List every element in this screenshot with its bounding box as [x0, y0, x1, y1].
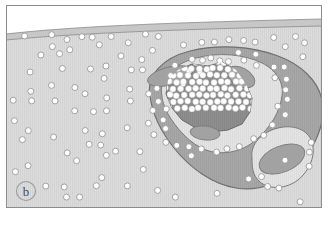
- core-cell-dot: [224, 93, 230, 99]
- cell-dot: [89, 34, 95, 40]
- cell-dot: [49, 44, 55, 50]
- cell-dot: [302, 40, 308, 46]
- cell-dot: [186, 144, 192, 150]
- cell-dot: [300, 54, 306, 60]
- cell-dot: [127, 86, 133, 92]
- core-cell-dot: [225, 79, 231, 85]
- core-cell-dot: [211, 80, 217, 86]
- core-cell-dot: [228, 99, 234, 105]
- cell-dot: [272, 75, 278, 81]
- core-cell-dot: [221, 98, 227, 104]
- core-cell-dot: [196, 66, 202, 72]
- core-cell-dot: [181, 92, 187, 98]
- cell-dot: [155, 34, 161, 40]
- cell-dot: [79, 34, 85, 40]
- core-cell-dot: [170, 86, 176, 92]
- cell-dot: [283, 87, 289, 93]
- cell-dot: [283, 76, 289, 82]
- core-cell-dot: [185, 72, 191, 78]
- cell-dot: [214, 190, 220, 196]
- core-cell-dot: [193, 85, 199, 91]
- core-cell-dot: [214, 72, 220, 78]
- cell-dot: [104, 95, 110, 101]
- cell-dot: [259, 174, 265, 180]
- core-cell-dot: [196, 91, 202, 97]
- core-cell-dot: [240, 92, 246, 98]
- core-cell-dot: [189, 106, 195, 112]
- cell-dot: [261, 132, 267, 138]
- cell-dot: [77, 194, 83, 200]
- core-cell-dot: [200, 86, 206, 92]
- cell-dot: [49, 32, 55, 38]
- core-cell-dot: [170, 99, 176, 105]
- cell-dot: [284, 96, 290, 102]
- cell-dot: [139, 57, 145, 63]
- core-cell-dot: [186, 86, 192, 92]
- cell-dot: [297, 199, 303, 205]
- cell-dot: [127, 98, 133, 104]
- cell-dot: [57, 51, 63, 57]
- core-cell-dot: [233, 106, 239, 112]
- cell-dot: [226, 59, 232, 65]
- cell-dot: [25, 163, 31, 169]
- cell-dot: [38, 52, 44, 58]
- cell-dot: [181, 42, 187, 48]
- cell-dot: [155, 187, 161, 193]
- cell-dot: [99, 175, 105, 181]
- cell-dot: [150, 47, 156, 53]
- core-cell-dot: [193, 73, 199, 79]
- cell-dot: [22, 33, 28, 39]
- cell-dot: [145, 120, 151, 126]
- cell-dot: [155, 98, 161, 104]
- cell-dot: [208, 55, 214, 61]
- cell-dot: [276, 185, 282, 191]
- cell-dot: [282, 44, 288, 50]
- cell-dot: [118, 53, 124, 59]
- cell-dot: [146, 91, 152, 97]
- cell-dot: [140, 166, 146, 172]
- cell-dot: [172, 62, 178, 68]
- cell-dot: [61, 184, 67, 190]
- cell-dot: [11, 118, 17, 124]
- cell-dot: [103, 63, 109, 69]
- core-cell-dot: [185, 98, 191, 104]
- core-cell-dot: [233, 78, 239, 84]
- cell-dot: [108, 34, 114, 40]
- cell-dot: [96, 42, 102, 48]
- core-cell-dot: [207, 71, 213, 77]
- cell-dot: [275, 103, 281, 109]
- core-cell-dot: [236, 99, 242, 105]
- cell-dot: [308, 139, 314, 145]
- cell-dot: [154, 85, 160, 91]
- cell-dot: [200, 57, 206, 63]
- cell-dot: [143, 31, 149, 37]
- core-cell-dot: [218, 105, 224, 111]
- core-cell-dot: [243, 99, 249, 105]
- cell-dot: [236, 144, 242, 150]
- core-cell-dot: [195, 105, 201, 111]
- cell-dot: [124, 183, 130, 189]
- cell-dot: [43, 183, 49, 189]
- core-cell-dot: [229, 72, 235, 78]
- cell-dot: [82, 128, 88, 134]
- core-cell-dot: [189, 79, 195, 85]
- core-cell-dot: [236, 85, 242, 91]
- cell-dot: [51, 134, 57, 140]
- cell-dot: [137, 149, 143, 155]
- cell-dot: [82, 91, 88, 97]
- cell-dot: [293, 34, 299, 40]
- core-cell-dot: [218, 79, 224, 85]
- core-cell-dot: [178, 98, 184, 104]
- core-cell-dot: [211, 105, 217, 111]
- cell-dot: [282, 157, 288, 163]
- cell-dot: [104, 108, 110, 114]
- cell-dot: [86, 141, 92, 147]
- cell-dot: [189, 56, 195, 62]
- cell-dot: [25, 128, 31, 134]
- core-cell-dot: [222, 85, 228, 91]
- cell-dot: [88, 66, 94, 72]
- core-cell-dot: [203, 80, 209, 86]
- core-cell-dot: [207, 99, 213, 105]
- cell-dot: [49, 82, 55, 88]
- cell-dot: [306, 163, 312, 169]
